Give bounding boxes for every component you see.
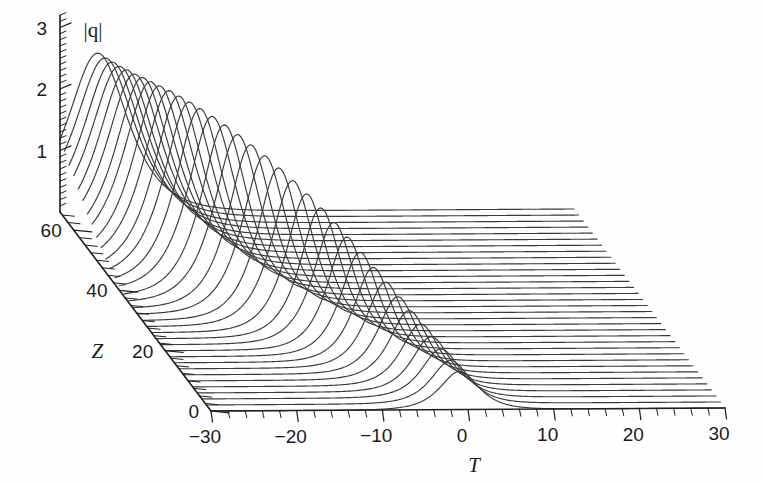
t-tick-30 <box>725 408 727 419</box>
q-tick-label-3: 3 <box>36 18 47 39</box>
t-tick--28 <box>228 411 230 418</box>
q-tick-3.2 <box>60 13 66 16</box>
z-tick-52.5 <box>91 253 103 254</box>
mesh-line-z-28 <box>147 181 661 327</box>
t-tick-8 <box>537 409 539 416</box>
q-tick-0.5 <box>60 179 66 182</box>
t-tick-label-0: 0 <box>457 425 468 446</box>
t-tick-label-20: 20 <box>623 424 644 445</box>
t-tick-18 <box>622 409 624 416</box>
t-tick--24 <box>262 411 264 418</box>
z-tick-47.5 <box>102 268 114 269</box>
t-tick--14 <box>348 410 350 417</box>
z-axis-title: Z <box>92 339 104 363</box>
q-tick-0.3 <box>60 191 66 194</box>
q-tick-0.9 <box>60 154 66 157</box>
waterfall-plot-svg: 123−30−20−1001020300204060|q|TZ <box>0 0 763 483</box>
z-tick-42.5 <box>114 283 126 284</box>
t-tick--26 <box>245 411 247 418</box>
z-tick-40 <box>119 290 137 292</box>
z-tick-27.5 <box>148 328 160 329</box>
t-tick--18 <box>314 410 316 417</box>
z-tick-45 <box>108 275 120 276</box>
t-tick-24 <box>674 408 676 415</box>
t-tick--30 <box>211 411 213 422</box>
t-tick--8 <box>399 410 401 417</box>
t-tick--2 <box>451 410 453 417</box>
z-tick-65 <box>62 215 74 216</box>
mesh-surface <box>60 53 725 411</box>
t-tick--6 <box>417 410 419 417</box>
z-tick-50 <box>97 260 109 261</box>
z-tick-60 <box>74 230 92 232</box>
z-tick-label-60: 60 <box>41 220 62 241</box>
mesh-line-z-10 <box>188 311 702 381</box>
z-tick-37.5 <box>125 298 137 299</box>
t-tick-14 <box>588 409 590 416</box>
q-tick-1.1 <box>60 142 66 145</box>
t-tick-label--20: −20 <box>275 426 307 447</box>
q-tick-1.9 <box>60 93 66 96</box>
t-tick-16 <box>605 409 607 416</box>
q-tick-2.3 <box>60 68 66 71</box>
chart-figure: 123−30−20−1001020300204060|q|TZ <box>0 0 763 483</box>
mesh-line-z-32 <box>138 156 652 314</box>
z-tick-7.5 <box>194 388 206 389</box>
z-tick-35 <box>131 305 143 306</box>
t-tick-12 <box>571 409 573 416</box>
q-tick-label-2: 2 <box>36 79 47 100</box>
t-tick-label--30: −30 <box>189 426 221 447</box>
t-tick--4 <box>434 410 436 417</box>
z-tick-30 <box>142 321 154 322</box>
q-tick-1.6 <box>60 111 66 114</box>
t-tick-label-10: 10 <box>537 424 558 445</box>
t-tick-4 <box>502 409 504 416</box>
t-tick-label-30: 30 <box>708 423 729 444</box>
q-tick-0.8 <box>60 160 66 163</box>
mesh-line-z-60 <box>74 66 588 228</box>
q-tick-0.4 <box>60 185 66 188</box>
q-tick-1.7 <box>60 105 66 108</box>
t-tick--20 <box>297 411 299 422</box>
z-tick-label-0: 0 <box>188 401 199 422</box>
q-tick-0.7 <box>60 166 66 169</box>
z-tick-55 <box>85 245 97 246</box>
q-tick-2.1 <box>60 80 66 83</box>
q-tick-3.0 <box>60 23 71 28</box>
mesh-line-z-18 <box>170 252 684 356</box>
q-tick-0.2 <box>60 197 66 200</box>
t-axis-title: T <box>468 453 481 477</box>
t-tick-10 <box>554 409 556 420</box>
q-tick-2.8 <box>60 37 66 40</box>
t-tick-26 <box>691 408 693 415</box>
q-tick-label-1: 1 <box>36 141 47 162</box>
t-tick--12 <box>365 410 367 417</box>
q-tick-2.6 <box>60 50 66 53</box>
q-tick-1.8 <box>60 99 66 102</box>
t-tick-2 <box>485 409 487 416</box>
q-tick-2.5 <box>60 56 66 59</box>
t-tick-28 <box>708 408 710 415</box>
z-tick-5 <box>200 396 212 397</box>
z-tick-label-20: 20 <box>132 341 153 362</box>
t-tick--16 <box>331 410 333 417</box>
z-tick-17.5 <box>171 358 183 359</box>
t-tick-0 <box>468 410 470 421</box>
q-tick-0.1 <box>60 203 66 206</box>
q-tick-2.0 <box>60 84 71 89</box>
t-tick--22 <box>280 411 282 418</box>
z-tick-label-40: 40 <box>86 280 107 301</box>
z-tick-57.5 <box>79 238 91 239</box>
t-tick--10 <box>382 410 384 421</box>
mesh-line-z-46 <box>106 96 620 271</box>
z-tick-25 <box>154 336 166 337</box>
t-tick-22 <box>656 408 658 415</box>
z-tick-15 <box>177 366 189 367</box>
q-tick-1.5 <box>60 117 66 120</box>
t-tick-label--10: −10 <box>360 425 392 446</box>
mesh-line-z-62 <box>69 62 583 222</box>
mesh-line-z-48 <box>101 91 615 265</box>
q-tick-2.9 <box>60 31 66 34</box>
q-tick-0.6 <box>60 173 66 176</box>
q-axis-title: |q| <box>84 18 103 42</box>
